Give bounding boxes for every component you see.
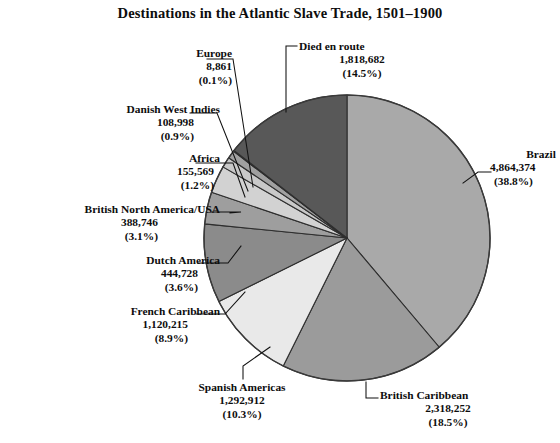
slice-label-europe: Europe 8,861 (0.1%) (62, 47, 232, 87)
slice-label-brazil: Brazil 4,864,374 (38.8%) (490, 148, 560, 188)
slice-label-africa-value: 155,569 (30, 165, 220, 178)
slice-label-spanish-americas: Spanish Americas 1,292,912 (10.3%) (172, 381, 312, 421)
slice-label-british-north-america-usa-value: 388,746 (2, 216, 220, 229)
slice-label-spanish-americas-percent: (10.3%) (172, 408, 312, 421)
slice-label-africa-percent: (1.2%) (30, 179, 220, 192)
slice-label-spanish-americas-name: Spanish Americas (172, 381, 312, 394)
slice-label-brazil-value: 4,864,374 (490, 161, 560, 174)
pie-chart-figure: Destinations in the Atlantic Slave Trade… (0, 0, 560, 443)
slice-label-dutch-america: Dutch America 444,728 (3.6%) (20, 254, 220, 294)
leader-line-british-caribbean (366, 382, 378, 398)
slice-label-british-north-america-usa-name: British North America/USA (2, 203, 220, 216)
slice-label-europe-percent: (0.1%) (62, 74, 232, 87)
slice-label-british-caribbean: British Caribbean 2,318,252 (18.5%) (380, 389, 550, 429)
slice-label-british-caribbean-percent: (18.5%) (380, 416, 550, 429)
slice-label-dutch-america-name: Dutch America (20, 254, 220, 267)
slice-label-died-en-route-name: Died en route (299, 40, 459, 53)
slice-label-french-caribbean-percent: (8.9%) (4, 332, 220, 345)
slice-label-british-caribbean-value: 2,318,252 (380, 402, 550, 415)
slice-label-french-caribbean-value: 1,120,215 (4, 318, 220, 331)
slice-label-french-caribbean: French Caribbean 1,120,215 (8.9%) (4, 305, 220, 345)
pie-slice-group (204, 95, 490, 381)
slice-label-british-north-america-usa-percent: (3.1%) (2, 230, 220, 243)
slice-label-danish-west-indies-percent: (0.9%) (20, 130, 220, 143)
slice-label-danish-west-indies: Danish West Indies 108,998 (0.9%) (20, 103, 220, 143)
slice-label-africa: Africa 155,569 (1.2%) (30, 152, 220, 192)
slice-label-died-en-route-percent: (14.5%) (299, 67, 459, 80)
slice-label-died-en-route-value: 1,818,682 (299, 53, 459, 66)
slice-label-africa-name: Africa (30, 152, 220, 165)
slice-label-danish-west-indies-value: 108,998 (20, 116, 220, 129)
slice-label-british-caribbean-name: British Caribbean (380, 389, 550, 402)
slice-label-danish-west-indies-name: Danish West Indies (20, 103, 220, 116)
slice-label-died-en-route: Died en route 1,818,682 (14.5%) (299, 40, 459, 80)
slice-label-europe-value: 8,861 (62, 60, 232, 73)
slice-label-dutch-america-value: 444,728 (20, 267, 220, 280)
slice-label-dutch-america-percent: (3.6%) (20, 281, 220, 294)
slice-label-europe-name: Europe (62, 47, 232, 60)
slice-label-british-north-america-usa: British North America/USA 388,746 (3.1%) (2, 203, 220, 243)
leader-line-died-en-route (286, 46, 297, 112)
slice-label-french-caribbean-name: French Caribbean (4, 305, 220, 318)
slice-label-brazil-name: Brazil (490, 148, 560, 161)
slice-label-spanish-americas-value: 1,292,912 (172, 394, 312, 407)
slice-label-brazil-percent: (38.8%) (490, 175, 560, 188)
